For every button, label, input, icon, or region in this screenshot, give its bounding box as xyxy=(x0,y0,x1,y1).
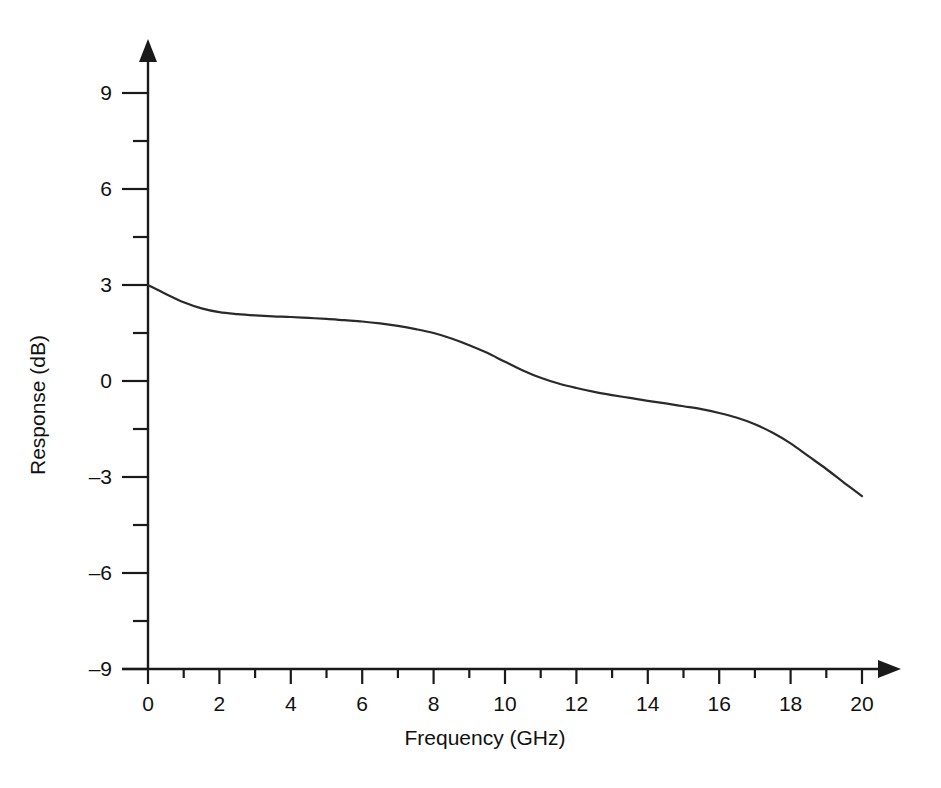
y-axis-tick-labels: –9–6–30369 xyxy=(89,81,112,680)
y-tick-label: 0 xyxy=(100,369,112,392)
y-tick-label: 3 xyxy=(100,273,112,296)
y-tick-label: –3 xyxy=(89,465,112,488)
x-axis-tick-labels: 02468101214161820 xyxy=(142,692,874,715)
chart-container: 02468101214161820 –9–6–30369 Frequency (… xyxy=(0,0,941,788)
axes-group xyxy=(122,39,901,678)
x-tick-label: 6 xyxy=(356,692,368,715)
x-tick-label: 2 xyxy=(214,692,226,715)
response-vs-frequency-chart: 02468101214161820 –9–6–30369 Frequency (… xyxy=(0,0,941,788)
y-axis-arrow-icon xyxy=(139,39,157,62)
y-tick-label: –9 xyxy=(89,657,112,680)
x-axis-arrow-icon xyxy=(878,660,901,678)
x-tick-label: 4 xyxy=(285,692,297,715)
y-tick-label: 6 xyxy=(100,177,112,200)
x-tick-label: 16 xyxy=(708,692,731,715)
response-curve xyxy=(148,285,862,496)
x-tick-label: 0 xyxy=(142,692,154,715)
y-tick-label: –6 xyxy=(89,561,112,584)
x-tick-label: 20 xyxy=(850,692,873,715)
x-axis-ticks xyxy=(148,669,862,684)
x-tick-label: 18 xyxy=(779,692,802,715)
y-tick-label: 9 xyxy=(100,81,112,104)
y-axis-title: Response (dB) xyxy=(26,335,49,475)
x-tick-label: 10 xyxy=(493,692,516,715)
data-series-group xyxy=(148,285,862,496)
x-tick-label: 14 xyxy=(636,692,660,715)
x-tick-label: 12 xyxy=(565,692,588,715)
x-axis-title: Frequency (GHz) xyxy=(404,726,565,749)
x-tick-label: 8 xyxy=(428,692,440,715)
y-axis-ticks xyxy=(122,93,148,669)
